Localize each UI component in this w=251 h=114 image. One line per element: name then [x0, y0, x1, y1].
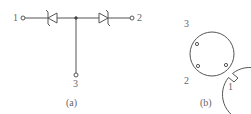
pin-hole — [196, 64, 199, 67]
pin2-label: 2 — [137, 13, 142, 23]
pin1-terminal — [21, 16, 25, 20]
pin3-terminal — [74, 73, 78, 77]
pin3-label: 3 — [73, 79, 78, 89]
circuit-a — [21, 10, 134, 77]
outer-ring — [222, 67, 251, 114]
pin-hole — [195, 42, 198, 45]
caption-b: (b) — [200, 98, 212, 108]
pin-hole — [224, 63, 227, 66]
pin1-label: 1 — [13, 13, 18, 23]
pin3-label-b: 3 — [184, 19, 189, 29]
pin2-terminal — [130, 16, 134, 20]
inner-ring — [190, 32, 234, 76]
tvs-diode-left — [46, 10, 57, 26]
caption-a: (a) — [66, 98, 77, 108]
pin1-label-b: 1 — [228, 82, 233, 92]
schematic-canvas — [0, 0, 251, 114]
pin2-label-b: 2 — [184, 76, 189, 86]
